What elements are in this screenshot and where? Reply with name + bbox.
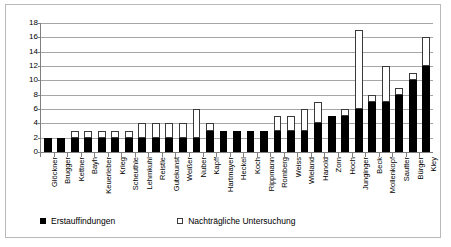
stacked-bar bbox=[71, 131, 79, 152]
chart-frame: 024681012141618 GlöcknerBruggerKettnerBa… bbox=[5, 4, 441, 238]
bar-group bbox=[109, 23, 123, 152]
x-axis-label-cell: Junginger bbox=[352, 157, 366, 213]
bar-segment-erstauffindungen bbox=[193, 138, 201, 152]
x-axis-label-cell: Reistle bbox=[148, 157, 162, 213]
bar-group bbox=[163, 23, 177, 152]
bar-group bbox=[365, 23, 379, 152]
bar-segment-nachtraegliche-untersuchung bbox=[165, 123, 173, 137]
bar-segment-nachtraegliche-untersuchung bbox=[111, 131, 119, 138]
bar-segment-erstauffindungen bbox=[206, 131, 214, 153]
y-axis-tick-label: 8 bbox=[10, 91, 38, 99]
stacked-bar bbox=[44, 138, 52, 152]
bar-group bbox=[203, 23, 217, 152]
bar-segment-nachtraegliche-untersuchung bbox=[422, 37, 430, 66]
filled-square-icon bbox=[40, 218, 46, 224]
stacked-bar bbox=[233, 131, 241, 153]
y-axis-tick-label: 16 bbox=[10, 33, 38, 41]
x-axis-label-cell: Koch bbox=[243, 157, 257, 213]
bar-group bbox=[311, 23, 325, 152]
bar-segment-erstauffindungen bbox=[274, 131, 282, 153]
stacked-bar bbox=[341, 109, 349, 152]
bar-group bbox=[352, 23, 366, 152]
x-axis-label-cell: Heckel bbox=[230, 157, 244, 213]
bar-segment-nachtraegliche-untersuchung bbox=[152, 123, 160, 137]
stacked-bar bbox=[287, 116, 295, 152]
bar-segment-erstauffindungen bbox=[179, 138, 187, 152]
bar-group bbox=[298, 23, 312, 152]
bar-segment-erstauffindungen bbox=[220, 131, 228, 153]
x-axis-label-cell: Zorn bbox=[324, 157, 338, 213]
bar-group bbox=[379, 23, 393, 152]
x-axis-label-cell: Mollenkopf bbox=[379, 157, 393, 213]
bar-segment-nachtraegliche-untersuchung bbox=[301, 109, 309, 131]
bar-segment-erstauffindungen bbox=[341, 116, 349, 152]
legend-item-nachtraegliche-untersuchung: Nachträgliche Untersuchung bbox=[177, 216, 295, 226]
bar-segment-erstauffindungen bbox=[84, 138, 92, 152]
x-axis-label-cell: Gutekunst bbox=[162, 157, 176, 213]
stacked-bar bbox=[152, 123, 160, 152]
stacked-bar bbox=[179, 123, 187, 152]
stacked-bar bbox=[98, 131, 106, 152]
x-axis-label-cell: Kley bbox=[419, 157, 433, 213]
x-axis-label-cell: Hanold bbox=[311, 157, 325, 213]
stacked-bar bbox=[328, 116, 336, 152]
bar-segment-nachtraegliche-untersuchung bbox=[409, 73, 417, 80]
bar-segment-erstauffindungen bbox=[287, 131, 295, 153]
y-axis-tick-label: 4 bbox=[10, 119, 38, 127]
bar-segment-nachtraegliche-untersuchung bbox=[314, 102, 322, 124]
stacked-bar bbox=[111, 131, 119, 152]
bar-segment-erstauffindungen bbox=[409, 80, 417, 152]
x-axis-label-cell: Rippmann bbox=[257, 157, 271, 213]
stacked-bar bbox=[165, 123, 173, 152]
bar-segment-erstauffindungen bbox=[98, 138, 106, 152]
bar-group bbox=[82, 23, 96, 152]
stacked-bar bbox=[409, 73, 417, 152]
bar-segment-nachtraegliche-untersuchung bbox=[84, 131, 92, 138]
x-axis-label-cell: Bürger bbox=[406, 157, 420, 213]
legend-label: Nachträgliche Untersuchung bbox=[188, 216, 295, 226]
x-axis-label-cell: Weiss bbox=[284, 157, 298, 213]
x-axis-label-cell: Scheuthle bbox=[121, 157, 135, 213]
bar-segment-erstauffindungen bbox=[138, 138, 146, 152]
bar-group bbox=[419, 23, 433, 152]
y-axis-tick-label: 10 bbox=[10, 76, 38, 84]
bar-segment-erstauffindungen bbox=[165, 138, 173, 152]
bar-group bbox=[257, 23, 271, 152]
x-axis-label-cell: Kapff bbox=[203, 157, 217, 213]
bar-segment-erstauffindungen bbox=[328, 116, 336, 152]
legend-item-erstauffindungen: Erstauffindungen bbox=[40, 216, 115, 226]
y-axis-tick-label: 18 bbox=[10, 19, 38, 27]
bar-segment-nachtraegliche-untersuchung bbox=[206, 123, 214, 130]
y-axis-tick-label: 12 bbox=[10, 62, 38, 70]
stacked-bar bbox=[260, 131, 268, 153]
legend-label: Erstauffindungen bbox=[51, 216, 115, 226]
bar-segment-erstauffindungen bbox=[355, 109, 363, 152]
x-axis-label-cell: Nuber bbox=[189, 157, 203, 213]
bar-segment-erstauffindungen bbox=[57, 138, 65, 152]
bar-group bbox=[284, 23, 298, 152]
stacked-bar bbox=[193, 109, 201, 152]
bar-segment-erstauffindungen bbox=[301, 131, 309, 153]
y-axis: 024681012141618 bbox=[6, 23, 38, 153]
x-axis-label-cell: Brugger bbox=[54, 157, 68, 213]
y-axis-tick-label: 2 bbox=[10, 134, 38, 142]
x-axis-label-cell: Glöckner bbox=[40, 157, 54, 213]
stacked-bar bbox=[84, 131, 92, 152]
bar-segment-erstauffindungen bbox=[233, 131, 241, 153]
bar-segment-erstauffindungen bbox=[422, 66, 430, 152]
x-axis-label-cell: Bayh bbox=[81, 157, 95, 213]
bar-segment-nachtraegliche-untersuchung bbox=[368, 95, 376, 102]
bar-segment-erstauffindungen bbox=[382, 102, 390, 152]
x-axis-label-cell: Beck bbox=[365, 157, 379, 213]
bar-segment-nachtraegliche-untersuchung bbox=[125, 131, 133, 138]
bar-group bbox=[271, 23, 285, 152]
stacked-bar bbox=[301, 109, 309, 152]
stacked-bar bbox=[368, 95, 376, 152]
x-axis-label-cell: Krieg bbox=[108, 157, 122, 213]
bar-segment-erstauffindungen bbox=[111, 138, 119, 152]
bar-segment-erstauffindungen bbox=[44, 138, 52, 152]
bar-group bbox=[217, 23, 231, 152]
stacked-bar bbox=[382, 66, 390, 152]
stacked-bar bbox=[206, 123, 214, 152]
stacked-bar bbox=[125, 131, 133, 152]
